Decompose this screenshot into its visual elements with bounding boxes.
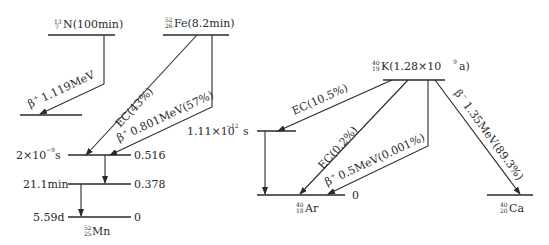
- k40-parent-label-end: a): [459, 60, 470, 73]
- n13-decay: 13 7 N(100min) β + 1.119MeV: [20, 18, 123, 115]
- fe52-z: 26: [165, 22, 173, 29]
- ca40-z: 20: [500, 207, 508, 214]
- k40-beta-minus-label: β − 1.35MeV(89.3%): [452, 87, 527, 183]
- ca40-label: Ca: [509, 202, 524, 215]
- mn52-label: Mn: [92, 225, 110, 238]
- k40-halflife-exp: 9: [453, 58, 457, 65]
- mn52-energy-3: 0: [134, 211, 141, 224]
- ar40-ground-energy: 0: [352, 189, 359, 202]
- k40-z: 19: [372, 65, 380, 72]
- ar40-ground: 0 40 18 Ar: [257, 189, 359, 215]
- k40-parent-label: K(1.28×10: [381, 60, 441, 73]
- decay-scheme-diagram: 13 7 N(100min) β + 1.119MeV 52 26 Fe(8.2…: [0, 0, 549, 245]
- mn52-energy-2: 0.378: [134, 178, 166, 191]
- svg-text:1.119MeV: 1.119MeV: [39, 68, 97, 104]
- k40-beta-minus-arrow: [435, 80, 520, 194]
- fe52-parent-label: Fe(8.2min): [174, 17, 235, 30]
- k40-excited-halflife-exp: −12: [226, 122, 239, 129]
- ar40-z: 18: [296, 207, 304, 214]
- mn52-halflife-3: 5.59d: [33, 211, 65, 224]
- svg-text:1.35MeV(89.3%): 1.35MeV(89.3%): [460, 99, 526, 182]
- mn52-halflife-1: 2×10: [16, 149, 46, 162]
- mn52-halflife-1-unit: s: [55, 149, 61, 162]
- k40-excited-halflife-unit: s: [243, 125, 249, 138]
- n13-parent-label: N(100min): [63, 18, 123, 31]
- mn52-energy-1: 0.516: [134, 149, 166, 162]
- k40-decay: 40 19 K(1.28×10 9 a) EC(10.5%) 1.11×10 −…: [187, 58, 527, 194]
- mn52-halflife-1-exp: −9: [46, 146, 55, 153]
- ar40-label: Ar: [304, 202, 319, 215]
- ca40-ground: 40 20 Ca: [487, 195, 533, 215]
- mn52-z: 25: [84, 230, 92, 237]
- mn52-levels: 2×10 −9 s 21.1min 5.59d 0.516 0.378 0 52…: [16, 146, 166, 238]
- n13-z: 7: [55, 23, 59, 30]
- mn52-halflife-2: 21.1min: [23, 178, 69, 191]
